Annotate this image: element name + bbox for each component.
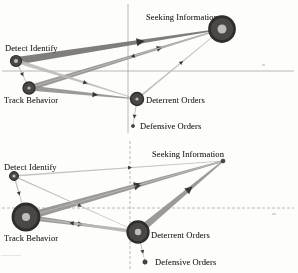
- node-label-seeking_information: Seeking Information: [152, 149, 224, 159]
- scan-speck: [1, 255, 21, 256]
- network-graph-bottom: [0, 137, 298, 273]
- node-detect_identify[interactable]: [10, 172, 19, 181]
- edge-arrowhead: [140, 250, 144, 254]
- node-label-detect_identify: Detect Identify: [5, 43, 58, 53]
- node-core: [14, 59, 18, 63]
- node-label-deterrent_orders: Deterrent Orders: [151, 230, 210, 240]
- node-core: [218, 25, 227, 34]
- node-core: [27, 86, 30, 89]
- edge-seeking_information-to-track_behavior: [33, 30, 215, 87]
- scan-speck: [262, 64, 265, 66]
- node-label-track_behavior: Track Behavior: [4, 233, 58, 243]
- node-disc[interactable]: [131, 124, 134, 127]
- node-detect_identify[interactable]: [11, 56, 22, 67]
- node-defensive_orders[interactable]: [143, 260, 147, 264]
- node-disc[interactable]: [221, 159, 225, 163]
- node-core: [12, 174, 15, 177]
- node-label-track_behavior: Track Behavior: [4, 95, 58, 105]
- node-disc[interactable]: [143, 260, 147, 264]
- node-core: [135, 229, 141, 235]
- node-defensive_orders[interactable]: [131, 124, 134, 127]
- edge-deterrent_orders-to-track_behavior: [36, 218, 133, 233]
- node-core: [22, 213, 30, 221]
- node-track_behavior[interactable]: [13, 204, 39, 230]
- node-core: [135, 97, 138, 100]
- edge-arrowhead: [133, 114, 137, 118]
- node-label-deterrent_orders: Deterrent Orders: [146, 95, 205, 105]
- node-deterrent_orders[interactable]: [128, 222, 149, 243]
- node-label-defensive_orders: Defensive Orders: [155, 257, 216, 267]
- node-label-defensive_orders: Defensive Orders: [140, 121, 201, 131]
- diagram-panel-bottom: Seeking InformationDetect IdentifyTrack …: [0, 137, 298, 273]
- figure-canvas: Seeking InformationDetect IdentifyTrack …: [0, 0, 298, 273]
- edge-deterrent_orders-to-seeking_information: [139, 35, 215, 98]
- edge-group: [14, 161, 222, 261]
- node-deterrent_orders[interactable]: [131, 93, 144, 106]
- scan-speck: [272, 213, 276, 215]
- node-seeking_information[interactable]: [221, 159, 225, 163]
- node-label-detect_identify: Detect Identify: [4, 162, 57, 172]
- diagram-panel-top: Seeking InformationDetect IdentifyTrack …: [0, 0, 298, 137]
- node-label-seeking_information: Seeking Information: [146, 12, 218, 22]
- node-track_behavior[interactable]: [23, 82, 35, 94]
